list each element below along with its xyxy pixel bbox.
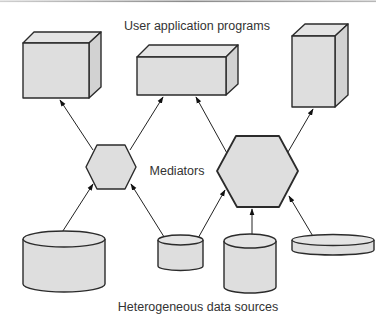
- app-box-3: [292, 24, 348, 107]
- edge-source-2-to-mediator-small: [131, 184, 166, 240]
- label-user-application-programs: User application programs: [124, 19, 270, 33]
- data-source-cylinder-3: [224, 234, 276, 293]
- data-source-cylinder-2: [158, 235, 203, 271]
- edge-source-2-to-mediator-large: [197, 190, 225, 240]
- edge-source-4-to-mediator-large: [289, 196, 314, 238]
- edge-source-1-to-mediator-small: [59, 184, 93, 237]
- data-source-cylinder-1: [23, 231, 105, 292]
- edge-mediator-large-to-app-3: [288, 109, 313, 152]
- label-mediators: Mediators: [150, 164, 205, 178]
- data-source-cylinder-4: [292, 235, 374, 256]
- app-box-2: [137, 45, 238, 95]
- label-heterogeneous-data-sources: Heterogeneous data sources: [118, 300, 279, 314]
- mediator-architecture-diagram: User application programs Mediators Hete…: [0, 0, 390, 319]
- edge-mediator-small-to-app-1: [60, 100, 93, 150]
- app-box-1: [23, 32, 101, 98]
- mediator-hexagon-small: [86, 145, 136, 189]
- mediator-hexagon-large: [217, 136, 298, 207]
- top-rule: [0, 1, 376, 3]
- edge-mediator-small-to-app-2: [130, 97, 163, 150]
- edge-mediator-large-to-app-2: [196, 97, 228, 155]
